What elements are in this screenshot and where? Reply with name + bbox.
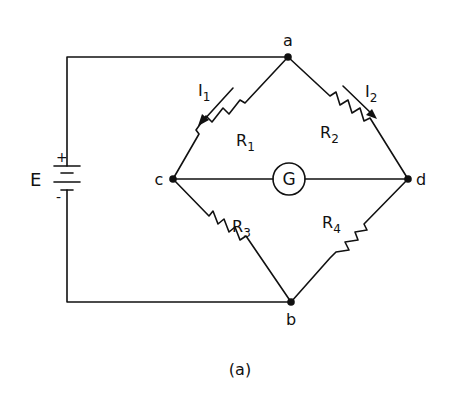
galvanometer-label: G — [282, 169, 295, 189]
node-a-dot — [284, 53, 292, 61]
node-c-dot — [169, 175, 177, 183]
node-b-dot — [287, 298, 295, 306]
node-c-label: c — [155, 170, 164, 189]
resistor-R1-label: R1 — [236, 131, 255, 154]
resistor-R3-icon — [173, 179, 291, 302]
node-d-dot — [404, 175, 412, 183]
node-d-label: d — [416, 170, 426, 189]
bottom-wire — [67, 190, 291, 302]
resistor-R2-label: R2 — [320, 123, 339, 146]
resistor-R2-icon — [288, 57, 408, 179]
battery-plus-label: + — [56, 149, 68, 165]
wheatstone-bridge-diagram: + - E R1 I1 R2 I2 R3 R4 G a c d b (a) — [0, 0, 454, 398]
top-wire — [67, 57, 288, 166]
resistor-R1-icon — [173, 57, 288, 179]
resistor-R4-icon — [291, 179, 408, 302]
current-I2-label: I2 — [365, 82, 377, 105]
node-a-label: a — [283, 31, 293, 50]
battery-minus-label: - — [56, 189, 61, 205]
resistor-R4-label: R4 — [322, 213, 341, 236]
battery-icon — [54, 166, 80, 190]
current-I1-label: I1 — [198, 81, 210, 104]
source-label-E: E — [30, 169, 41, 190]
resistor-R3-label: R3 — [232, 217, 251, 240]
node-b-label: b — [286, 310, 296, 329]
figure-caption: (a) — [229, 360, 251, 379]
